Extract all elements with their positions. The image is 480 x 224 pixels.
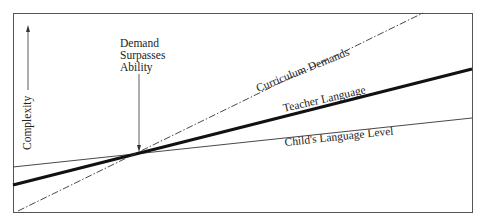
- diagram: Complexity Demand Surpasses Ability Curr…: [0, 0, 480, 224]
- y-axis-label: Complexity: [21, 95, 34, 150]
- annotation-line-3: Ability: [120, 61, 153, 74]
- frame: [14, 14, 473, 213]
- annotation-line-1: Demand: [120, 37, 159, 49]
